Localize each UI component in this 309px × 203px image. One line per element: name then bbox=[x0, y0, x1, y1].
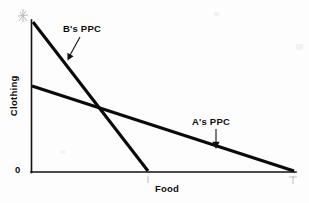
b-ppc-line bbox=[33, 22, 148, 171]
chart-canvas bbox=[0, 0, 309, 203]
ppc-chart-figure: B's PPC A's PPC Food Clothing 0 bbox=[0, 0, 309, 203]
y-axis-label: Clothing bbox=[9, 68, 19, 124]
b-ppc-annotation-arrow bbox=[67, 37, 80, 61]
y-axis-top-mark bbox=[18, 9, 28, 22]
scan-artifact bbox=[214, 12, 219, 16]
b-ppc-label: B's PPC bbox=[63, 24, 101, 34]
a-ppc-line bbox=[32, 86, 294, 171]
origin-label: 0 bbox=[15, 165, 20, 175]
a-ppc-label: A's PPC bbox=[192, 117, 230, 127]
scan-artifact bbox=[60, 150, 65, 154]
scan-artifact bbox=[296, 44, 303, 50]
x-axis-label: Food bbox=[155, 184, 179, 194]
